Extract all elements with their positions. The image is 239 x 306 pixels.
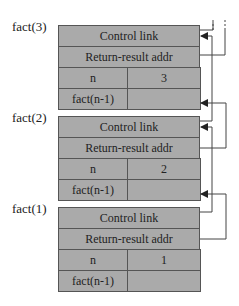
control-link-arrow-fact2-to-fact3: [200, 36, 212, 121]
control-link-arrow-fact1-to-fact2: [200, 127, 212, 212]
return-link-arrow-fact1-to-fact2: [200, 194, 226, 239]
return-link-arrow-fact2-to-fact3: [200, 103, 226, 148]
control-link-connector-fact3: [200, 22, 213, 30]
connector-layer: [0, 0, 239, 306]
